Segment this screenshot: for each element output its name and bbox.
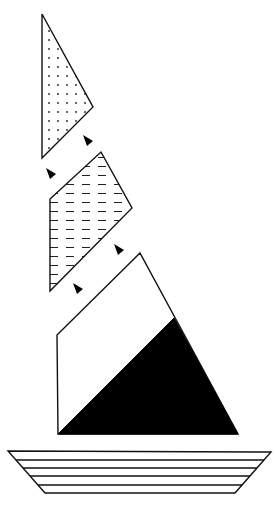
sailboat-diagram: Sailboat assembled from geometric pieces [0,0,276,517]
dashed-quadrilateral-piece [50,152,132,291]
arrowhead-icon [114,244,124,255]
arrowhead-icon [46,168,56,179]
hull-piece [8,451,271,493]
arrowhead-icon [83,135,93,146]
diagram-svg [0,0,276,517]
dotted-triangle-piece [42,14,93,158]
arrowhead-icon [73,283,83,294]
